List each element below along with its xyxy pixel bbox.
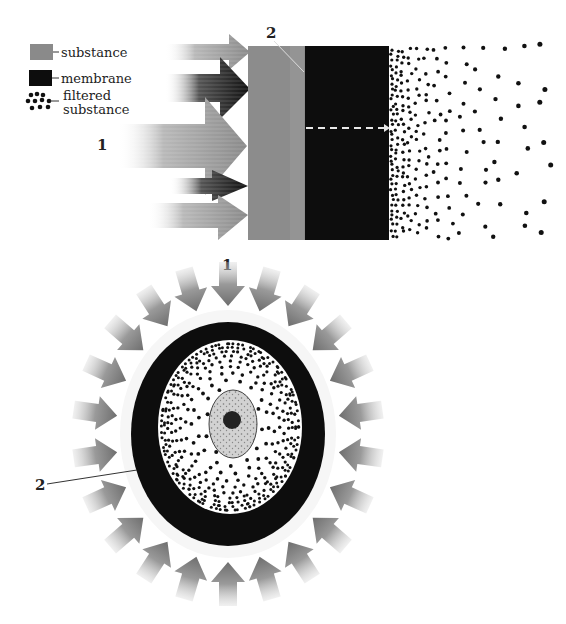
label-2-bottom: 2 xyxy=(35,476,45,494)
label-2-bottom-leader xyxy=(47,470,137,484)
legend-item-substance: substance xyxy=(30,44,128,60)
nucleolus xyxy=(223,411,241,429)
top-panel: 1 2 xyxy=(97,24,553,241)
legend: substance membrane filtered substance xyxy=(26,44,132,117)
legend-item-membrane: membrane xyxy=(29,70,132,86)
membrane-layer xyxy=(305,46,389,240)
legend-label-filtered: filtered xyxy=(63,88,111,103)
dots-swatch xyxy=(26,92,52,111)
bottom-panel: 1 2 xyxy=(35,256,385,606)
label-1-top: 1 xyxy=(97,136,107,154)
filtered-dots xyxy=(389,42,553,241)
legend-label-substance: substance xyxy=(61,45,128,60)
membrane-swatch xyxy=(29,70,52,86)
legend-item-filtered-substance: filtered substance xyxy=(26,88,130,117)
filtration-diagram: substance membrane filtered substance 1 xyxy=(0,0,566,624)
label-2-top: 2 xyxy=(266,24,276,42)
substance-swatch xyxy=(30,44,53,60)
substance-arrows xyxy=(118,34,250,240)
